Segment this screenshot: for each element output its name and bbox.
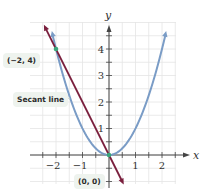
x-tick-label: −2 [46, 160, 61, 171]
x-axis-arrow-icon [183, 153, 190, 158]
x-tick-label: 1 [132, 160, 138, 171]
point-b-callout: (0, 0) [74, 174, 105, 189]
point-origin [107, 153, 112, 158]
y-axis-label: y [104, 9, 112, 22]
x-tick-label: −1 [73, 160, 88, 171]
y-tick-label: 2 [98, 97, 104, 108]
point-neg2-4 [54, 47, 59, 52]
x-tick-label: 2 [159, 160, 165, 171]
x-axis-label: x [193, 149, 200, 162]
y-tick-label: 4 [98, 44, 104, 55]
parabola-arrow-left-icon [51, 31, 56, 37]
secant-line-callout: Secant line [13, 92, 68, 107]
y-tick-label: 3 [98, 70, 104, 81]
y-axis-arrow-icon [107, 25, 112, 32]
point-a-callout: (−2, 4) [3, 53, 40, 68]
parabola-arrow-right-icon [162, 31, 167, 37]
